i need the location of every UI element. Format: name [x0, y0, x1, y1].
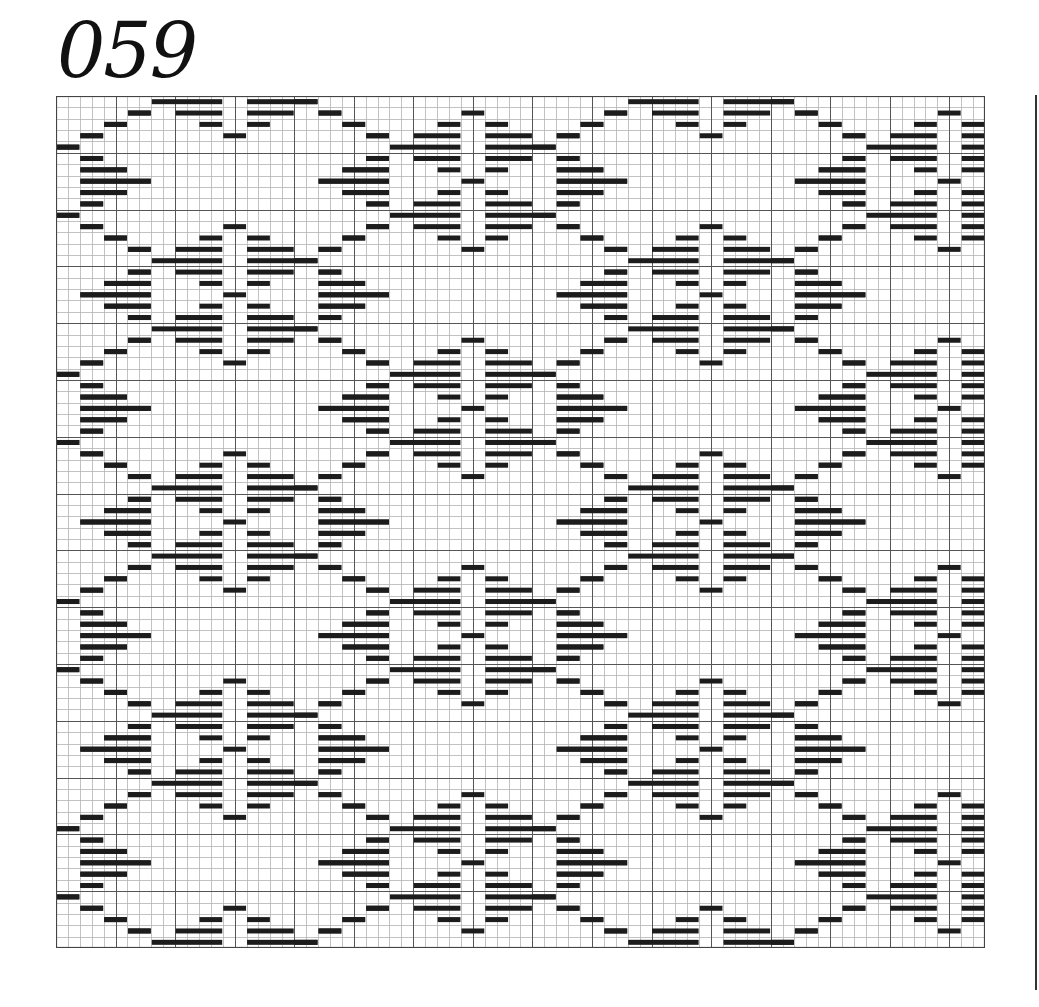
pattern-bar — [247, 758, 270, 763]
pattern-bar — [199, 236, 222, 241]
pattern-bar — [461, 860, 484, 865]
pattern-bar — [247, 769, 294, 774]
pattern-bar — [890, 656, 937, 661]
pattern-bar — [80, 224, 103, 229]
pattern-bar — [938, 792, 961, 797]
pattern-bar — [890, 201, 937, 206]
pattern-bar — [700, 360, 723, 365]
pattern-bar — [723, 769, 770, 774]
pattern-bar — [390, 440, 460, 445]
pattern-bar — [461, 247, 484, 252]
pattern-bar — [128, 928, 151, 933]
pattern-bar — [914, 236, 937, 241]
pattern-bar — [319, 281, 366, 286]
pattern-bar — [414, 224, 461, 229]
pattern-bar — [557, 395, 604, 400]
pattern-bar — [938, 860, 961, 865]
pattern-bar — [962, 815, 985, 820]
pattern-bar — [485, 236, 508, 241]
pattern-bar — [128, 315, 151, 320]
pattern-bar — [438, 690, 461, 695]
pattern-bar — [319, 315, 342, 320]
pattern-bar — [581, 122, 604, 127]
pattern-bar — [57, 599, 80, 604]
pattern-bar — [199, 758, 222, 763]
pattern-bar — [652, 928, 699, 933]
pattern-bar — [795, 520, 865, 525]
pattern-bar — [890, 224, 937, 229]
pattern-bar — [938, 474, 961, 479]
pattern-bar — [319, 735, 366, 740]
pattern-bar — [866, 826, 936, 831]
pattern-bar — [485, 349, 508, 354]
pattern-bar — [390, 894, 460, 899]
pattern-bar — [152, 713, 222, 718]
pattern-bar — [557, 610, 580, 615]
pattern-bar — [676, 531, 699, 536]
pattern-bar — [723, 792, 770, 797]
pattern-bar — [485, 451, 532, 456]
pattern-bar — [771, 940, 794, 945]
pattern-bar — [962, 906, 985, 911]
pattern-bar — [485, 872, 508, 877]
pattern-bar — [962, 429, 985, 434]
pattern-bar — [319, 565, 342, 570]
pattern-bar — [80, 872, 127, 877]
pattern-bar — [342, 622, 389, 627]
pattern-bar — [795, 179, 865, 184]
pattern-bar — [366, 224, 389, 229]
pattern-bar — [843, 815, 866, 820]
pattern-bar — [128, 769, 151, 774]
pattern-bar — [319, 860, 389, 865]
pattern-bar — [199, 304, 222, 309]
pattern-bar — [57, 213, 80, 218]
pattern-bar — [223, 747, 246, 752]
pattern-bar — [652, 565, 699, 570]
pattern-bar — [938, 179, 961, 184]
pattern-bar — [128, 565, 151, 570]
pattern-bar — [557, 417, 604, 422]
pattern-bar — [890, 588, 937, 593]
pattern-bar — [819, 849, 866, 854]
pattern-bar — [199, 690, 222, 695]
pattern-bar — [700, 815, 723, 820]
pattern-bar — [80, 656, 103, 661]
pattern-bar — [723, 508, 746, 513]
pattern-bar — [485, 656, 532, 661]
pattern-bar — [247, 474, 294, 479]
pattern-bar — [819, 236, 842, 241]
pattern-bar — [914, 917, 937, 922]
pattern-bar — [652, 724, 699, 729]
pattern-bar — [962, 360, 985, 365]
pattern-bar — [414, 610, 461, 615]
pattern-bar — [962, 372, 985, 377]
pattern-bar — [319, 531, 366, 536]
pattern-bar — [914, 349, 937, 354]
pattern-bar — [80, 292, 150, 297]
pattern-bar — [581, 576, 604, 581]
pattern-bar — [795, 701, 818, 706]
pattern-bar — [866, 440, 936, 445]
pattern-bar — [581, 735, 628, 740]
pattern-bar — [461, 338, 484, 343]
pattern-bar — [962, 588, 985, 593]
pattern-bar — [485, 201, 532, 206]
pattern-bar — [628, 713, 698, 718]
pattern-bar — [104, 304, 151, 309]
pattern-bar — [795, 406, 865, 411]
pattern-bar — [128, 724, 151, 729]
pattern-bar — [319, 292, 389, 297]
pattern-bar — [533, 894, 556, 899]
pattern-bar — [581, 917, 604, 922]
pattern-bar — [176, 565, 223, 570]
pattern-bar — [247, 122, 270, 127]
pattern-bar — [962, 656, 985, 661]
pattern-bar — [723, 349, 746, 354]
pattern-bar — [700, 224, 723, 229]
pattern-bar — [199, 349, 222, 354]
pattern-bar — [80, 906, 103, 911]
pattern-bar — [485, 815, 532, 820]
pattern-bar — [628, 940, 698, 945]
pattern-bar — [223, 292, 246, 297]
pattern-bar — [795, 281, 842, 286]
